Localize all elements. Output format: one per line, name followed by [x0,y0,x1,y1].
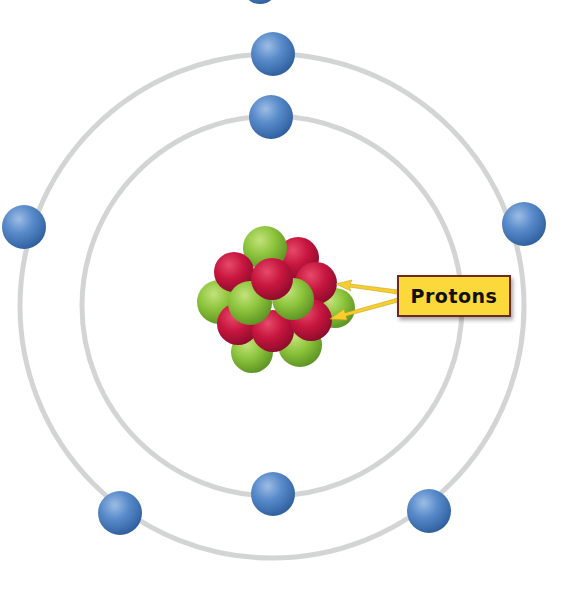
electron [502,202,546,246]
nucleus [197,226,355,373]
electron [242,0,278,4]
protons-label-text: Protons [411,285,498,307]
protons-label: Protons [397,275,511,317]
electron [2,205,46,249]
electron [251,32,295,76]
electron [251,472,295,516]
electron [98,491,142,535]
electron [249,95,293,139]
electron [407,489,451,533]
proton [251,258,293,300]
